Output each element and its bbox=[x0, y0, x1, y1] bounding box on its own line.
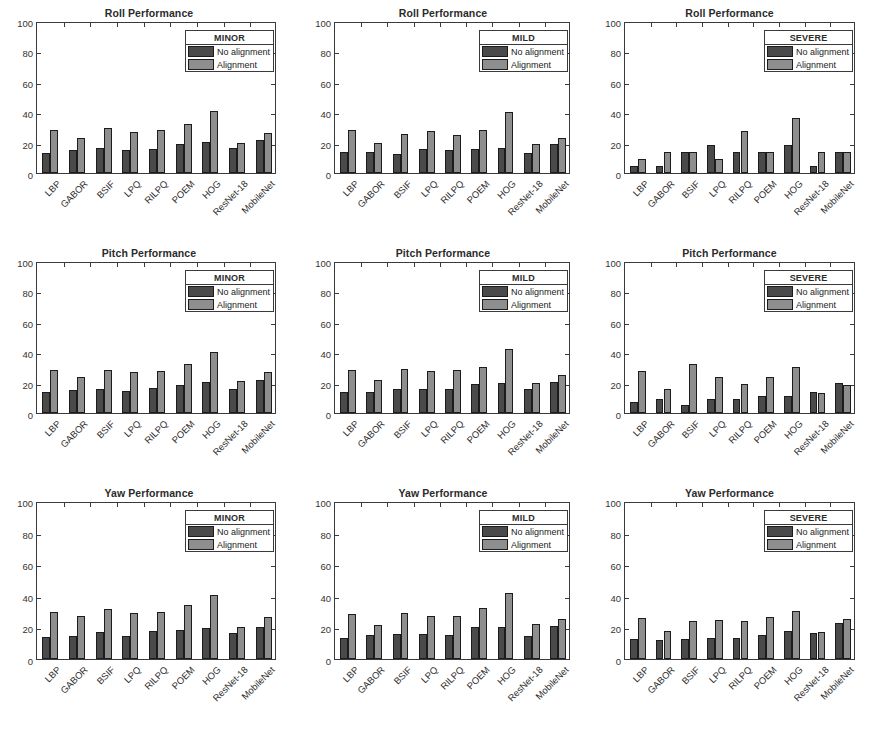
bar bbox=[96, 148, 104, 173]
chart-panel-inner: Yaw Performance020406080100LBPGABORBSIFL… bbox=[0, 480, 298, 730]
bar bbox=[835, 383, 843, 413]
bar bbox=[784, 396, 792, 413]
chart-legend[interactable]: MILDNo alignmentAlignment bbox=[479, 510, 568, 552]
bar bbox=[550, 626, 558, 659]
chart-title: Yaw Performance bbox=[298, 487, 588, 499]
bar bbox=[810, 633, 818, 659]
y-tick-label: 40 bbox=[320, 592, 331, 603]
bar bbox=[733, 638, 741, 659]
legend-item[interactable]: Alignment bbox=[186, 298, 273, 311]
legend-item[interactable]: No alignment bbox=[765, 525, 852, 538]
y-tick-label: 60 bbox=[610, 318, 621, 329]
bar bbox=[401, 369, 409, 413]
legend-item[interactable]: No alignment bbox=[186, 525, 273, 538]
bar bbox=[453, 135, 461, 173]
legend-item[interactable]: No alignment bbox=[186, 285, 273, 298]
chart-legend[interactable]: SEVERENo alignmentAlignment bbox=[764, 510, 853, 552]
bar bbox=[419, 389, 427, 413]
legend-item[interactable]: Alignment bbox=[480, 298, 567, 311]
chart-legend[interactable]: SEVERENo alignmentAlignment bbox=[764, 270, 853, 312]
legend-item[interactable]: No alignment bbox=[480, 45, 567, 58]
bar bbox=[348, 370, 356, 413]
legend-item[interactable]: Alignment bbox=[186, 58, 273, 71]
bar bbox=[707, 638, 715, 659]
legend-item[interactable]: No alignment bbox=[480, 285, 567, 298]
bar bbox=[210, 352, 218, 413]
bar bbox=[505, 112, 513, 173]
bar bbox=[733, 152, 741, 173]
chart-panel-inner: Roll Performance020406080100LBPGABORBSIF… bbox=[298, 0, 588, 240]
bar bbox=[733, 399, 741, 413]
bar bbox=[374, 143, 382, 173]
legend-title: SEVERE bbox=[765, 271, 852, 285]
bar bbox=[689, 152, 697, 173]
chart-title: Pitch Performance bbox=[0, 247, 298, 259]
y-tick-label: 60 bbox=[22, 78, 33, 89]
bar bbox=[638, 618, 646, 659]
bar bbox=[340, 638, 348, 659]
y-tick-label: 80 bbox=[610, 288, 621, 299]
bar bbox=[122, 636, 130, 659]
legend-title: MINOR bbox=[186, 31, 273, 45]
bar bbox=[550, 144, 558, 173]
legend-label: Alignment bbox=[217, 540, 260, 550]
bar bbox=[505, 593, 513, 659]
legend-item[interactable]: Alignment bbox=[765, 58, 852, 71]
bar bbox=[202, 628, 210, 659]
legend-item[interactable]: Alignment bbox=[765, 298, 852, 311]
legend-swatch-icon bbox=[482, 59, 508, 70]
bar bbox=[50, 612, 58, 659]
legend-item[interactable]: No alignment bbox=[186, 45, 273, 58]
y-tick-label: 60 bbox=[22, 318, 33, 329]
bar bbox=[419, 634, 427, 659]
bar bbox=[818, 152, 826, 173]
legend-swatch-icon bbox=[188, 299, 214, 310]
chart-legend[interactable]: MILDNo alignmentAlignment bbox=[479, 30, 568, 72]
legend-item[interactable]: No alignment bbox=[765, 285, 852, 298]
bar bbox=[202, 382, 210, 413]
bar bbox=[656, 166, 664, 173]
y-tick-label: 60 bbox=[320, 78, 331, 89]
chart-panel-inner: Pitch Performance020406080100LBPGABORBSI… bbox=[0, 240, 298, 480]
legend-item[interactable]: Alignment bbox=[765, 538, 852, 551]
chart-legend[interactable]: MINORNo alignmentAlignment bbox=[185, 270, 274, 312]
bar bbox=[681, 639, 689, 659]
y-tick-label: 80 bbox=[320, 529, 331, 540]
bar bbox=[681, 152, 689, 173]
bar bbox=[630, 166, 638, 173]
legend-swatch-icon bbox=[767, 299, 793, 310]
bar bbox=[524, 389, 532, 413]
bar bbox=[707, 145, 715, 173]
legend-label: No alignment bbox=[217, 47, 273, 57]
bar bbox=[741, 131, 749, 173]
chart-title: Roll Performance bbox=[298, 7, 588, 19]
chart-legend[interactable]: MILDNo alignmentAlignment bbox=[479, 270, 568, 312]
bar bbox=[229, 389, 237, 413]
bar bbox=[366, 152, 374, 173]
y-tick-label: 20 bbox=[320, 139, 331, 150]
bar bbox=[638, 371, 646, 413]
chart-legend[interactable]: MINORNo alignmentAlignment bbox=[185, 510, 274, 552]
y-tick-label: 80 bbox=[320, 48, 331, 59]
x-tick-label: MobileNet bbox=[180, 664, 277, 739]
bar bbox=[707, 399, 715, 413]
legend-swatch-icon bbox=[767, 539, 793, 550]
legend-item[interactable]: No alignment bbox=[765, 45, 852, 58]
chart-legend[interactable]: SEVERENo alignmentAlignment bbox=[764, 30, 853, 72]
legend-item[interactable]: No alignment bbox=[480, 525, 567, 538]
bar bbox=[810, 166, 818, 173]
bar bbox=[532, 624, 540, 659]
chart-panel-yaw-severe: Yaw Performance020406080100LBPGABORBSIFL… bbox=[588, 480, 871, 730]
legend-item[interactable]: Alignment bbox=[480, 538, 567, 551]
y-tick-label: 80 bbox=[22, 529, 33, 540]
y-tick-label: 80 bbox=[320, 288, 331, 299]
bar bbox=[550, 382, 558, 413]
bar bbox=[229, 633, 237, 659]
bar bbox=[792, 367, 800, 413]
legend-item[interactable]: Alignment bbox=[480, 58, 567, 71]
bar bbox=[445, 635, 453, 659]
y-tick-label: 20 bbox=[610, 624, 621, 635]
chart-legend[interactable]: MINORNo alignmentAlignment bbox=[185, 30, 274, 72]
y-tick-label: 40 bbox=[610, 109, 621, 120]
legend-item[interactable]: Alignment bbox=[186, 538, 273, 551]
